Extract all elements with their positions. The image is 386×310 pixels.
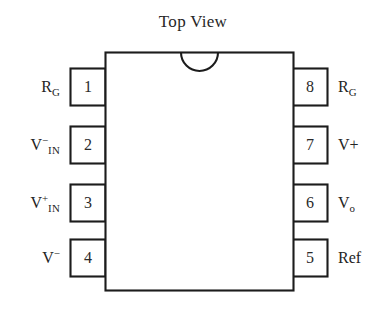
pin-number-3: 3	[70, 194, 106, 212]
pin-number-5: 5	[292, 249, 328, 267]
ic-body-outline	[106, 53, 294, 291]
pin-label-8-sub: G	[349, 86, 357, 98]
pin-label-7: V+	[338, 137, 359, 153]
pin-label-2: V−IN	[30, 137, 60, 153]
pin-number-1: 1	[70, 78, 106, 96]
pin-label-5-main: Ref	[338, 249, 361, 266]
pin-number-2: 2	[70, 136, 106, 154]
pin-number-8: 8	[292, 78, 328, 96]
pin-label-4-main: V	[42, 249, 54, 266]
pin-label-6: Vo	[338, 195, 355, 211]
pin-label-7-main: V+	[338, 136, 359, 153]
pin-label-4: V−	[42, 250, 60, 266]
pin-number-4: 4	[70, 249, 106, 267]
pin-label-3-main: V	[30, 194, 42, 211]
pin-label-5: Ref	[338, 250, 361, 266]
pin-label-1-sub: G	[52, 86, 60, 98]
pin-label-2-main: V	[30, 136, 42, 153]
pin-label-3: V+IN	[30, 195, 60, 211]
pin-label-2-sub: IN	[48, 144, 60, 156]
pin-label-6-main: V	[338, 194, 350, 211]
pin-label-3-sub: IN	[48, 202, 60, 214]
pin-label-8: RG	[338, 79, 357, 95]
pin-label-4-sup: −	[54, 247, 60, 259]
pin-label-1: RG	[41, 79, 60, 95]
pin-label-1-main: R	[41, 78, 52, 95]
pin-label-8-main: R	[338, 78, 349, 95]
pin-number-6: 6	[292, 194, 328, 212]
pin-label-6-sub: o	[350, 202, 356, 214]
ic-pinout-diagram: Top View 1 2 3 4 8 7 6 5 RG V−IN V+IN V−	[0, 0, 386, 310]
pin-number-7: 7	[292, 136, 328, 154]
